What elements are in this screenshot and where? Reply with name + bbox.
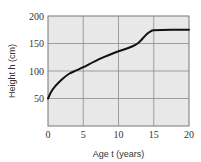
y-tick-label: 50 <box>34 93 44 104</box>
y-axis-tick-labels: 50100150200 <box>29 11 44 105</box>
x-tick-label: 0 <box>46 129 51 140</box>
x-axis-label: Age t (years) <box>93 149 145 159</box>
height-vs-age-chart: 50100150200 05101520 Age t (years) Heigh… <box>0 0 201 162</box>
x-tick-label: 20 <box>184 129 194 140</box>
x-tick-label: 15 <box>149 129 159 140</box>
y-tick-label: 200 <box>29 11 44 22</box>
x-tick-label: 5 <box>81 129 86 140</box>
y-tick-label: 150 <box>29 38 44 49</box>
x-tick-label: 10 <box>114 129 124 140</box>
y-axis-label: Height h (cm) <box>7 44 17 98</box>
plot-area <box>48 16 189 126</box>
y-tick-label: 100 <box>29 66 44 77</box>
x-axis-tick-labels: 05101520 <box>46 129 195 140</box>
